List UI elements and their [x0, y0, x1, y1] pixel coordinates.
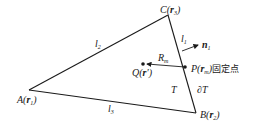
point-q: [141, 62, 145, 66]
edge-l2-label: l2: [95, 38, 101, 50]
boundary-label: ∂T: [197, 84, 209, 95]
rm-arrow: [147, 64, 185, 67]
vertex-b-label: B(r2): [200, 109, 220, 121]
point-p: [183, 65, 187, 69]
point-q-label: Q(r′): [132, 67, 153, 79]
edge-l1-label: l1: [181, 33, 187, 45]
edge-l3-label: l3: [108, 103, 114, 115]
region-label: T: [171, 84, 178, 95]
normal-label: n1: [202, 39, 211, 51]
vertex-a-label: A(r1): [16, 94, 37, 106]
point-p-label: P(rm)固定点: [190, 63, 239, 75]
distance-label: Rm: [157, 52, 169, 64]
triangle-diagram: C(r3) A(r1) B(r2) l2 l1 l3 n1 Rm P(rm)固定…: [0, 0, 255, 128]
normal-arrow: [182, 45, 198, 51]
vertex-c-label: C(r3): [160, 4, 181, 16]
edge-l2: [29, 15, 168, 90]
